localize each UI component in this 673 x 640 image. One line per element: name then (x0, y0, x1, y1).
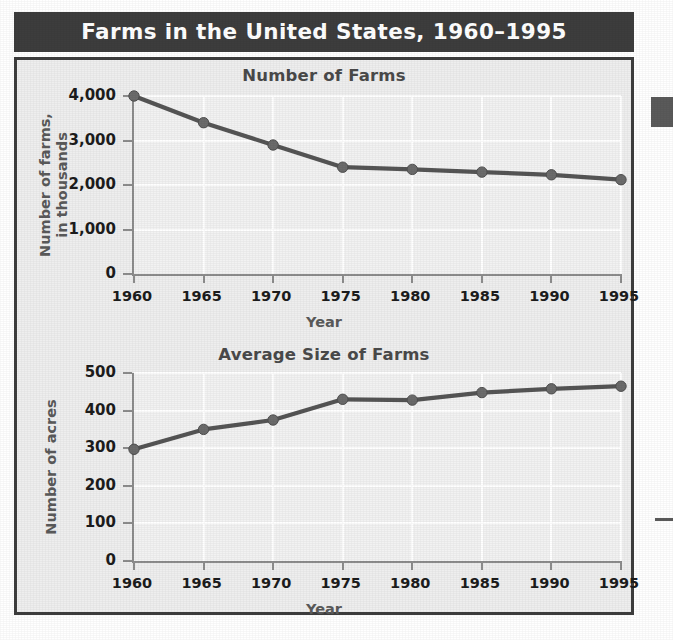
scan-artifact-bottom-right (655, 518, 673, 521)
x-tick-0-3 (342, 274, 344, 283)
data-point-0-6 (546, 170, 556, 180)
plot-area-0 (132, 96, 621, 276)
data-point-0-0 (129, 91, 139, 101)
x-tick-0-1 (203, 274, 205, 283)
x-tick-label-1-0: 1960 (102, 575, 162, 591)
figure-title: Farms in the United States, 1960–1995 (14, 19, 634, 44)
data-point-0-7 (616, 175, 626, 185)
data-point-0-5 (477, 167, 487, 177)
y-tick-label-1-2: 200 (17, 476, 116, 494)
y-tick-label-0-0: 0 (17, 264, 116, 282)
x-tick-1-4 (411, 561, 413, 570)
y-tick-label-1-1: 100 (17, 513, 116, 531)
y-tick-1-0 (123, 560, 132, 562)
x-tick-0-5 (481, 274, 483, 283)
y-tick-1-1 (123, 522, 132, 524)
data-point-0-3 (338, 162, 348, 172)
y-tick-label-1-4: 400 (17, 401, 116, 419)
x-tick-label-0-6: 1990 (519, 288, 579, 304)
x-tick-0-2 (272, 274, 274, 283)
x-tick-1-5 (481, 561, 483, 570)
y-tick-0-2 (123, 184, 132, 186)
x-tick-1-3 (342, 561, 344, 570)
x-tick-label-1-4: 1980 (380, 575, 440, 591)
series-line-0 (134, 96, 621, 274)
x-tick-label-1-6: 1990 (519, 575, 579, 591)
data-point-1-5 (477, 387, 487, 397)
x-tick-1-6 (550, 561, 552, 570)
y-tick-label-1-0: 0 (17, 551, 116, 569)
data-point-0-4 (407, 164, 417, 174)
x-tick-label-1-7: 1995 (589, 575, 649, 591)
y-tick-0-1 (123, 229, 132, 231)
x-tick-1-0 (133, 561, 135, 570)
x-tick-label-0-2: 1970 (241, 288, 301, 304)
y-tick-label-1-5: 500 (17, 363, 116, 381)
x-tick-label-0-3: 1975 (311, 288, 371, 304)
y-tick-1-4 (123, 410, 132, 412)
x-tick-label-0-7: 1995 (589, 288, 649, 304)
figure-container: Farms in the United States, 1960–1995 Nu… (14, 12, 634, 615)
x-tick-0-0 (133, 274, 135, 283)
x-tick-0-6 (550, 274, 552, 283)
x-tick-label-0-5: 1985 (450, 288, 510, 304)
x-tick-label-0-1: 1965 (172, 288, 232, 304)
x-tick-0-7 (620, 274, 622, 283)
chart-number-of-farms: Number of Farms Number of farms, in thou… (17, 66, 631, 334)
y-tick-0-0 (123, 273, 132, 275)
x-tick-1-7 (620, 561, 622, 570)
x-tick-label-0-0: 1960 (102, 288, 162, 304)
x-tick-1-1 (203, 561, 205, 570)
y-tick-1-5 (123, 372, 132, 374)
figure-title-banner: Farms in the United States, 1960–1995 (14, 12, 634, 52)
y-tick-label-0-1: 1,000 (17, 220, 116, 238)
chart-average-size-of-farms: Average Size of Farms Number of acres Ye… (17, 345, 631, 613)
x-tick-label-1-2: 1970 (241, 575, 301, 591)
y-tick-label-0-2: 2,000 (17, 175, 116, 193)
charts-panel: Number of Farms Number of farms, in thou… (14, 57, 634, 615)
data-point-1-1 (198, 424, 208, 434)
y-tick-label-0-3: 3,000 (17, 131, 116, 149)
scan-artifact-top-right (651, 97, 673, 127)
data-point-1-0 (129, 444, 139, 454)
x-tick-label-1-1: 1965 (172, 575, 232, 591)
x-tick-1-2 (272, 561, 274, 570)
y-tick-0-3 (123, 140, 132, 142)
x-axis-title-0: Year (17, 314, 631, 330)
chart-title-1: Average Size of Farms (17, 345, 631, 364)
chart-title-0: Number of Farms (17, 66, 631, 85)
data-point-0-1 (198, 118, 208, 128)
x-tick-label-1-5: 1985 (450, 575, 510, 591)
data-point-0-2 (268, 140, 278, 150)
data-point-1-6 (546, 384, 556, 394)
x-tick-label-0-4: 1980 (380, 288, 440, 304)
series-line-1 (134, 373, 621, 561)
x-tick-label-1-3: 1975 (311, 575, 371, 591)
y-tick-label-0-4: 4,000 (17, 86, 116, 104)
data-point-1-2 (268, 415, 278, 425)
data-point-1-4 (407, 395, 417, 405)
y-tick-label-1-3: 300 (17, 438, 116, 456)
x-tick-0-4 (411, 274, 413, 283)
data-point-1-3 (338, 394, 348, 404)
x-axis-title-1: Year (17, 601, 631, 617)
data-point-1-7 (616, 381, 626, 391)
y-tick-1-2 (123, 485, 132, 487)
plot-area-1 (132, 373, 621, 563)
